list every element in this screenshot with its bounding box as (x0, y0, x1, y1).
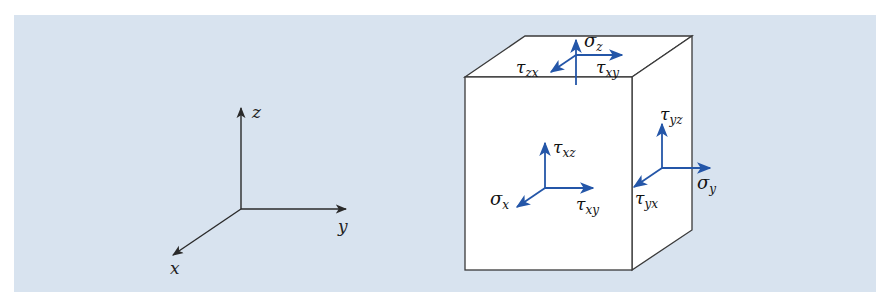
z-axis-label: z (251, 102, 262, 122)
y-axis-label: y (337, 216, 348, 236)
stress-cube (465, 36, 692, 270)
x-axis-arrow (173, 209, 241, 255)
cube-front-face (465, 77, 632, 270)
x-axis-label: x (170, 258, 180, 278)
figure-panel: z y x σz τzx τxy τxz σx τxy τyz σy τyx (14, 15, 876, 292)
sigma-z-label: σz (584, 30, 603, 54)
stress-element-diagram: z y x σz τzx τxy τxz σx τxy τyz σy τyx (14, 15, 876, 292)
coordinate-axes: z y x (170, 102, 348, 278)
sigma-y-label: σy (697, 172, 716, 196)
